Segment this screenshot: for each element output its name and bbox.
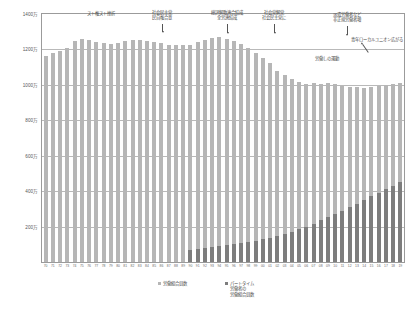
bar-total — [167, 45, 171, 262]
x-axis-tick-label: 75 — [80, 264, 84, 268]
bar-parttime — [369, 196, 373, 262]
annotation-pointer — [227, 24, 228, 33]
x-axis-tick-label: 81 — [123, 264, 127, 268]
bar-total — [131, 40, 135, 262]
annot-shakai-minshu: 社会民主党民自権合意 — [152, 10, 172, 21]
bar-total — [268, 63, 272, 262]
bar-parttime — [239, 243, 243, 262]
x-axis-tick-label: 12 — [348, 264, 352, 268]
annotation-pointer — [347, 26, 348, 35]
bar-parttime — [290, 232, 294, 262]
annot-strike-right: スト権スト挫折 — [87, 11, 115, 16]
bar-parttime — [217, 246, 221, 262]
x-axis-tick-label: 77 — [94, 264, 98, 268]
x-axis-tick-label: 70 — [44, 264, 48, 268]
legend-swatch — [158, 282, 161, 285]
x-axis-tick-label: 00 — [261, 264, 265, 268]
legend-label-line: 労働組合員数 — [230, 292, 254, 297]
bar-total — [225, 39, 229, 262]
bar-parttime — [340, 211, 344, 262]
bar-total — [102, 43, 106, 262]
bar-parttime — [319, 220, 323, 262]
x-axis-tick-label: 18 — [391, 264, 395, 268]
bar-parttime — [355, 204, 359, 262]
bar-parttime — [188, 250, 192, 262]
bar-total — [203, 40, 207, 262]
bar-parttime — [391, 186, 395, 262]
x-axis-tick-label: 89 — [181, 264, 185, 268]
legend-label: 労働組合員数 — [163, 281, 187, 286]
bar-total — [246, 48, 250, 262]
x-axis-tick-label: 82 — [131, 264, 135, 268]
bar-total — [210, 38, 214, 262]
bar-parttime — [246, 242, 250, 262]
x-axis-tick-label: 06 — [304, 264, 308, 268]
legend-item[interactable]: パートタイム労働者の労働組合員数 — [225, 281, 254, 297]
bar-total — [138, 40, 142, 262]
bar-parttime — [261, 239, 265, 262]
bar-parttime — [254, 241, 258, 262]
bar-total — [152, 42, 156, 262]
x-axis-tick-label: 13 — [355, 264, 359, 268]
bar-total — [80, 39, 84, 262]
x-axis-tick-label: 15 — [370, 264, 374, 268]
x-axis-tick-label: 07 — [312, 264, 316, 268]
x-axis-tick-label: 83 — [138, 264, 142, 268]
bar-parttime — [377, 193, 381, 262]
bar-total — [239, 44, 243, 262]
y-axis-tick-label: 1000万 — [23, 82, 38, 87]
bar-parttime — [203, 248, 207, 262]
bar-parttime — [362, 200, 366, 262]
bar-parttime — [312, 224, 316, 262]
bar-parttime — [196, 249, 200, 262]
legend-item[interactable]: 労働組合員数 — [158, 281, 187, 297]
bar-total — [188, 45, 192, 262]
bar-total — [254, 53, 258, 262]
x-axis-tick-label: 19 — [398, 264, 402, 268]
annot-shakaito-kaito: 社会党解党社会民主党に — [262, 10, 286, 21]
bar-total — [232, 41, 236, 262]
bar-total — [181, 45, 185, 262]
x-axis-tick-label: 74 — [73, 264, 77, 268]
x-axis-tick-label: 78 — [102, 264, 106, 268]
annot-rodosha-ha: 労働しの運動 — [315, 56, 339, 61]
x-axis-tick-label: 84 — [145, 264, 149, 268]
bar-parttime — [384, 189, 388, 262]
bar-parttime — [297, 229, 301, 262]
bar-total — [94, 42, 98, 262]
annotation-line: 民自権合意 — [152, 15, 172, 20]
x-axis-tick-label: 16 — [377, 264, 381, 268]
annot-sohyo-rengo: 総評解散連合結成全労連結成 — [211, 10, 243, 21]
bar-total — [145, 41, 149, 262]
y-axis-tick-label: 1400万 — [23, 12, 38, 17]
bar-parttime — [275, 236, 279, 262]
bar-total — [217, 37, 221, 262]
bar-total — [261, 58, 265, 262]
bar-total — [116, 43, 120, 262]
bar-parttime — [333, 214, 337, 262]
bar-total — [73, 41, 77, 262]
x-axis-tick-label: 99 — [254, 264, 258, 268]
bar-parttime — [398, 182, 402, 262]
legend-swatch — [225, 282, 228, 285]
annotation-line: 非正規労働者増 — [333, 17, 361, 22]
bar-parttime — [304, 227, 308, 262]
x-axis-tick-label: 73 — [65, 264, 69, 268]
bar-parttime — [283, 234, 287, 262]
x-axis-tick-label: 14 — [362, 264, 366, 268]
x-axis-tick-label: 87 — [167, 264, 171, 268]
x-axis-tick-label: 72 — [58, 264, 62, 268]
bar-total — [51, 53, 55, 262]
annotation-line: 全労連結成 — [211, 15, 243, 20]
annot-local-union: 青年ローカルユニオン広がる — [351, 37, 403, 42]
annotation-pointer — [274, 24, 275, 33]
y-axis-tick-label: 400万 — [25, 189, 38, 194]
x-axis-tick-label: 05 — [297, 264, 301, 268]
x-axis-tick-label: 92 — [203, 264, 207, 268]
x-axis-tick-label: 08 — [319, 264, 323, 268]
x-axis-tick-label: 95 — [225, 264, 229, 268]
bar-parttime — [326, 217, 330, 262]
legend-label-line: 労働組合員数 — [163, 281, 187, 286]
x-axis-tick-label: 91 — [196, 264, 200, 268]
bar-total — [109, 44, 113, 262]
